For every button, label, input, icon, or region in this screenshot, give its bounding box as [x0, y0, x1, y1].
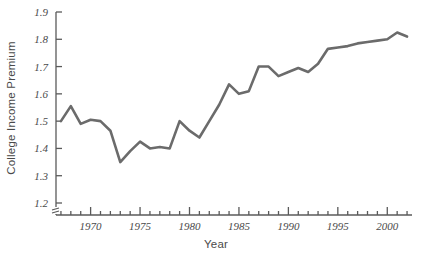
chart-figure: 1.21.31.41.51.61.71.81.91970197519801985… — [0, 0, 432, 262]
series-line-college-income-premium — [61, 32, 407, 162]
x-tick-label: 1990 — [277, 220, 300, 232]
data-series-layer — [61, 32, 407, 162]
tick-label-layer: 1.21.31.41.51.61.71.81.91970197519801985… — [34, 6, 399, 232]
y-tick-label: 1.9 — [34, 6, 48, 18]
y-tick-label: 1.6 — [34, 88, 48, 100]
y-tick-label: 1.8 — [34, 33, 48, 45]
x-tick-label: 2000 — [376, 220, 399, 232]
line-chart-plot: 1.21.31.41.51.61.71.81.91970197519801985… — [0, 0, 432, 262]
x-tick-label: 1980 — [179, 220, 202, 232]
y-tick-label: 1.2 — [34, 197, 48, 209]
y-axis-title-text: College Income Premium — [5, 41, 17, 175]
y-tick-label: 1.7 — [34, 61, 48, 73]
x-tick-label: 1970 — [80, 220, 103, 232]
x-tick-label: 1975 — [129, 220, 152, 232]
y-axis-title: College Income Premium — [0, 0, 22, 215]
y-tick-label: 1.3 — [34, 170, 48, 182]
y-tick-label: 1.5 — [34, 115, 48, 127]
x-tick-label: 1985 — [228, 220, 251, 232]
x-tick-label: 1995 — [327, 220, 350, 232]
y-tick-label: 1.4 — [34, 142, 48, 154]
x-axis-title: Year — [0, 238, 432, 250]
